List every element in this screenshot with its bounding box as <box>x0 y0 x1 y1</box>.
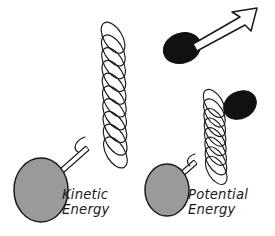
gray-ellipse-mass-icon <box>14 158 68 222</box>
potential-label-line1: Potential <box>188 187 248 202</box>
gray-ellipse-mass-icon <box>145 164 189 216</box>
potential-label-line2: Energy <box>188 202 236 217</box>
kinetic-label-line2: Energy <box>62 202 110 217</box>
kinetic-label-line1: Kinetic <box>62 187 109 202</box>
physics-diagram: Kinetic Energy <box>0 0 275 236</box>
diagram-canvas: Kinetic Energy <box>0 0 275 236</box>
